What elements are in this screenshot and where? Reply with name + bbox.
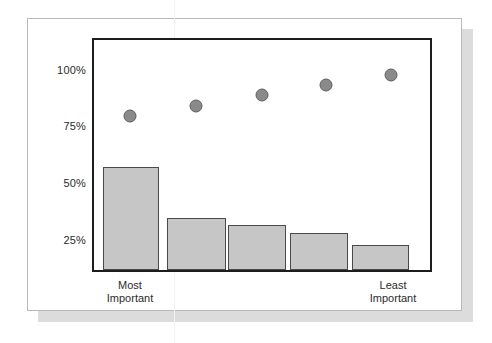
- data-point-marker-1[interactable]: [124, 109, 137, 122]
- figure-root: 100% 75% 50% 25% Most Important Least Im…: [0, 0, 492, 343]
- y-axis-tick-labels: 100% 75% 50% 25%: [44, 38, 86, 272]
- y-tick-25: 25%: [63, 234, 86, 246]
- x-label-least-line1: Least: [370, 279, 416, 292]
- plot-area: [92, 38, 432, 272]
- y-tick-75: 75%: [63, 120, 86, 132]
- x-label-most-line1: Most: [107, 279, 153, 292]
- bar-5[interactable]: [352, 245, 409, 270]
- y-tick-50: 50%: [63, 177, 86, 189]
- x-label-least-important: Least Important: [370, 279, 416, 305]
- bar-3[interactable]: [228, 225, 286, 270]
- x-label-most-important: Most Important: [107, 279, 153, 305]
- data-point-marker-3[interactable]: [256, 89, 269, 102]
- x-label-most-line2: Important: [107, 292, 153, 305]
- bar-2[interactable]: [167, 218, 226, 270]
- bar-4[interactable]: [290, 233, 348, 270]
- data-point-marker-4[interactable]: [320, 79, 333, 92]
- plot-inner: [94, 40, 430, 270]
- y-tick-100: 100%: [57, 64, 86, 76]
- data-point-marker-2[interactable]: [190, 99, 203, 112]
- data-point-marker-5[interactable]: [385, 68, 398, 81]
- x-label-least-line2: Important: [370, 292, 416, 305]
- bar-1[interactable]: [103, 167, 159, 270]
